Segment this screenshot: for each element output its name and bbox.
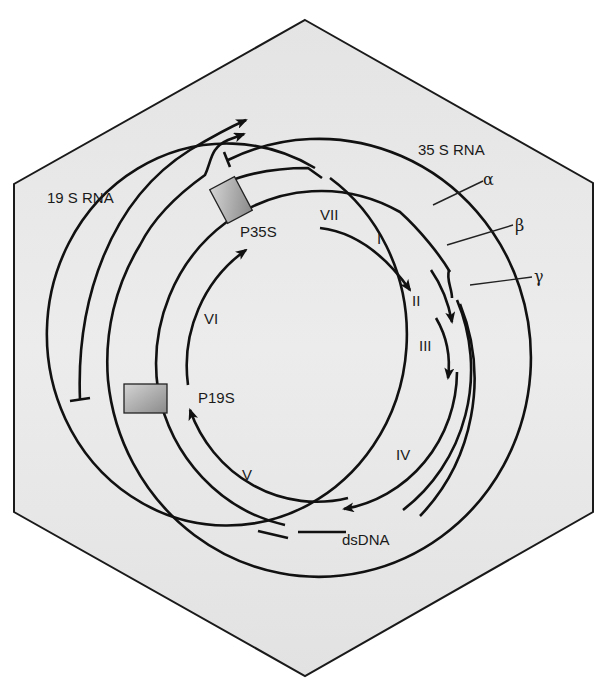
- label-orf-iii: III: [419, 337, 432, 354]
- label-orf-iv: IV: [396, 446, 410, 463]
- label-orf-vi: VI: [204, 310, 218, 327]
- label-beta: β: [515, 216, 524, 235]
- label-alpha: α: [483, 170, 494, 189]
- label-gamma: γ: [534, 267, 544, 286]
- label-19s-rna: 19 S RNA: [47, 189, 114, 206]
- promoter-box-p19s: [124, 384, 167, 413]
- label-orf-v: V: [242, 466, 252, 483]
- label-orf-ii: II: [412, 292, 420, 309]
- label-35s-rna: 35 S RNA: [418, 141, 485, 158]
- label-orf-vii: VII: [320, 206, 338, 223]
- label-orf-i: I: [377, 230, 381, 247]
- label-p19s: P19S: [198, 389, 235, 406]
- capsid-hexagon: [14, 20, 593, 676]
- label-p35s: P35S: [240, 223, 277, 240]
- label-dsdna: dsDNA: [342, 531, 390, 548]
- camv-genome-diagram: 35 S RNA 19 S RNA P35S P19S α β γ dsDNA …: [0, 0, 610, 694]
